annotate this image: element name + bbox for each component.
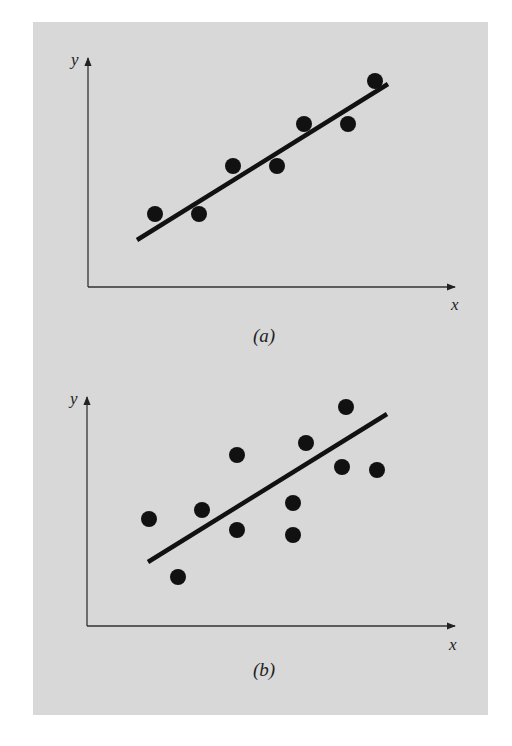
data-point <box>229 522 245 538</box>
data-point <box>269 158 285 174</box>
data-point <box>367 73 383 89</box>
x-axis-label: x <box>448 635 457 654</box>
figure-svg: y x (a) y x (b) <box>0 0 512 746</box>
caption-a: (a) <box>253 325 275 347</box>
data-point <box>285 495 301 511</box>
data-point <box>141 511 157 527</box>
data-point <box>194 502 210 518</box>
data-point <box>340 116 356 132</box>
y-axis-label: y <box>68 389 78 408</box>
data-point <box>298 435 314 451</box>
data-point <box>338 399 354 415</box>
data-points <box>147 73 383 222</box>
y-axis-label: y <box>69 50 79 69</box>
data-point <box>191 206 207 222</box>
axes <box>87 397 455 626</box>
data-point <box>296 116 312 132</box>
plot-a: y x (a) <box>69 50 459 347</box>
fit-line <box>137 84 388 240</box>
data-point <box>334 459 350 475</box>
x-axis-label: x <box>450 295 459 314</box>
data-point <box>225 158 241 174</box>
axes <box>88 58 455 287</box>
data-point <box>147 206 163 222</box>
data-point <box>170 569 186 585</box>
caption-b: (b) <box>253 659 275 681</box>
data-point <box>369 462 385 478</box>
data-point <box>285 527 301 543</box>
fit-line <box>148 414 387 562</box>
plot-b: y x (b) <box>68 389 457 681</box>
data-point <box>229 447 245 463</box>
